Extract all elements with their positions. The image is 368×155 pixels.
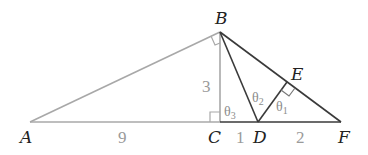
theta2-subscript: 2	[259, 96, 264, 107]
length-label-df: 2	[296, 128, 305, 147]
angle-label-theta3: θ3	[224, 104, 236, 121]
point-label-a: A	[18, 127, 32, 147]
point-label-f: F	[337, 127, 351, 147]
theta1-subscript: 1	[283, 105, 288, 116]
segment-ab	[30, 32, 220, 122]
right-angle-mark-c	[210, 112, 220, 122]
angle-label-theta1: θ1	[276, 99, 288, 116]
point-label-e: E	[290, 64, 304, 84]
angle-label-theta2: θ2	[252, 90, 264, 107]
right-angle-mark-e	[281, 88, 295, 96]
geometry-diagram: B A C D E F 3 9 1 2 θ3 θ2 θ1	[0, 0, 368, 155]
point-label-c: C	[208, 127, 221, 147]
length-label-cd: 1	[236, 128, 245, 147]
diagram-svg: B A C D E F 3 9 1 2 θ3 θ2 θ1	[0, 0, 368, 155]
length-label-bc: 3	[202, 77, 211, 96]
length-label-ac: 9	[118, 128, 127, 147]
point-label-b: B	[214, 8, 228, 28]
right-angle-mark-b	[211, 36, 220, 45]
point-label-d: D	[252, 127, 267, 147]
theta3-subscript: 3	[231, 110, 236, 121]
